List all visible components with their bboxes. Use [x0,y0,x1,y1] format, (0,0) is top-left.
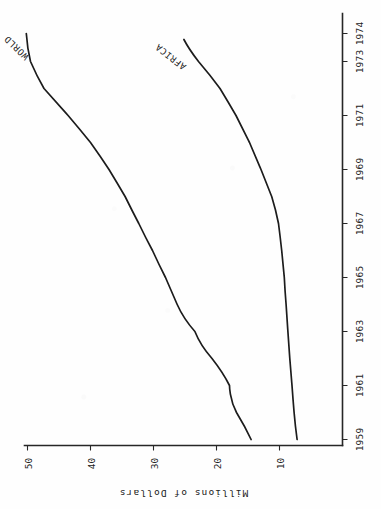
x-tick-labels: 1959 1961 1963 1965 1967 1969 1971 1973 … [353,21,364,451]
x-tick-label-1963: 1963 [353,319,364,343]
x-tick-label-1959: 1959 [353,427,364,451]
y-axis-title: Millions of Dollars [118,487,248,498]
series-line-africa [183,39,296,439]
chart-figure: 1959 1961 1963 1965 1967 1969 1971 1973 … [0,0,381,509]
y-tick-label-10: 10 [274,457,285,469]
scanned-page: 1959 1961 1963 1965 1967 1969 1971 1973 … [0,0,381,509]
x-tick-label-1974: 1974 [353,21,364,45]
line-chart-svg: 1959 1961 1963 1965 1967 1969 1971 1973 … [0,0,381,509]
y-tick-label-20: 20 [211,457,222,469]
x-tick-label-1967: 1967 [353,211,364,235]
series-label-africa: AFRICA [153,41,188,71]
y-tick-label-40: 40 [85,457,96,469]
x-tick-label-1961: 1961 [353,373,364,397]
y-tick-label-30: 30 [148,457,159,469]
x-tick-label-1973: 1973 [353,49,364,73]
y-tick-labels: 10 20 30 40 50 [22,457,285,469]
x-tick-label-1965: 1965 [353,265,364,289]
axes-group [24,13,342,445]
y-tick-label-50: 50 [22,457,33,469]
plot-frame: 1959 1961 1963 1965 1967 1969 1971 1973 … [0,0,381,509]
x-tick-label-1971: 1971 [353,103,364,127]
series-line-world [26,33,251,439]
x-tick-label-1969: 1969 [353,157,364,181]
